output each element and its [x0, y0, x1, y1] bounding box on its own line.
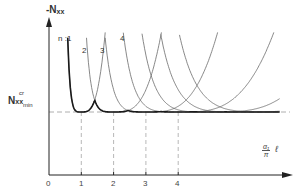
x-axis-fraction: α₁ π	[262, 143, 270, 158]
x-tick-3: 3	[143, 179, 147, 188]
y-axis-arrow-icon	[46, 17, 52, 27]
x-axis-fraction-num: α₁	[262, 143, 270, 151]
curve-label-n3: 3	[100, 46, 104, 55]
curve-n7	[180, 35, 280, 112]
y-axis-label: -Nxx	[46, 5, 64, 15]
nmin-label-sub: xx	[15, 98, 23, 105]
x-axis-fraction-den: π	[262, 151, 270, 158]
mode-curves	[68, 32, 280, 112]
nmin-label: Ncrxxmin	[8, 96, 33, 108]
x-tick-0: 0	[46, 179, 50, 188]
nmin-label-sup: cr	[19, 90, 24, 96]
nmin-label-sub2: min	[23, 102, 33, 108]
curve-n6	[161, 34, 280, 112]
curve-n3	[105, 32, 217, 112]
reference-dashed-lines	[49, 112, 290, 175]
curve-label-n2: 2	[82, 46, 86, 55]
y-axis-label-main: -N	[46, 4, 57, 15]
y-axis-label-sub: xx	[57, 8, 65, 15]
x-tick-2: 2	[111, 179, 115, 188]
x-tick-1: 1	[79, 179, 83, 188]
curve-n4	[123, 32, 273, 112]
axes	[46, 17, 293, 178]
curve-label-n4: 4	[120, 34, 124, 43]
curve-label-n1: n :1	[58, 34, 71, 43]
buckling-chart	[0, 0, 300, 195]
x-tick-4: 4	[175, 179, 179, 188]
x-axis-label-ell: ℓ	[275, 144, 278, 154]
x-axis-arrow-icon	[282, 172, 293, 178]
curve-n1	[68, 32, 106, 112]
x-axis-label: α₁ π ℓ	[262, 143, 278, 158]
